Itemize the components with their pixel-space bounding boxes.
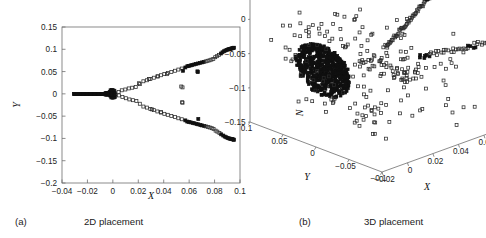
data-point-marker: [355, 119, 358, 122]
data-point-marker: [170, 70, 173, 73]
x-tick-label: −0.04: [52, 187, 73, 196]
x-tick-label: 0.02: [427, 157, 443, 166]
data-point-marker: [323, 92, 326, 95]
data-point-marker: [407, 66, 410, 69]
data-point-marker: [455, 65, 458, 68]
data-point-marker: [449, 58, 452, 61]
data-point-marker: [367, 104, 370, 107]
data-point-marker: [166, 113, 169, 116]
data-point-marker: [134, 85, 137, 88]
data-point-marker: [137, 82, 140, 85]
data-point-marker: [323, 68, 326, 71]
y-tick-label: 0.1: [46, 45, 58, 54]
data-point-marker: [299, 68, 302, 71]
plot-3d-zaxis-label: N: [294, 108, 305, 117]
data-point-marker: [177, 117, 180, 120]
data-point-marker: [323, 102, 326, 105]
data-point-marker: [400, 99, 403, 102]
data-point-marker: [359, 53, 362, 56]
data-point-marker: [358, 124, 361, 127]
data-point-marker: [462, 106, 465, 109]
data-point-marker: [308, 47, 311, 50]
data-point-marker: [348, 107, 351, 110]
data-point-marker: [339, 78, 342, 81]
data-point-marker: [355, 15, 358, 18]
y-tick-label: 0.05: [41, 68, 57, 77]
plot-3d-datapoints: [270, 0, 486, 140]
data-point-marker: [354, 37, 357, 40]
data-point-marker: [311, 58, 314, 61]
data-point-marker: [173, 116, 176, 119]
data-point-marker: [326, 81, 329, 84]
plot-2d-datapoints: [73, 46, 236, 141]
data-point-marker: [362, 118, 365, 121]
data-point-marker: [331, 63, 334, 66]
data-point-marker: [358, 31, 361, 34]
data-point-marker: [444, 84, 447, 87]
data-point-marker: [316, 64, 319, 67]
data-point-marker: [124, 97, 127, 100]
data-point-marker: [337, 72, 340, 75]
data-point-marker: [340, 64, 343, 67]
z-tick-label: −0.05: [225, 50, 246, 59]
data-point-marker: [297, 100, 300, 103]
data-point-marker: [360, 44, 363, 47]
data-point-marker: [317, 58, 320, 61]
data-point-marker: [121, 96, 124, 99]
data-point-marker: [361, 114, 364, 117]
data-point-marker: [321, 47, 324, 50]
data-point-marker: [425, 54, 428, 57]
data-point-marker: [433, 66, 436, 69]
data-point-marker: [142, 80, 145, 83]
z-tick-label: −0.1: [229, 84, 246, 93]
data-point-marker: [138, 102, 141, 105]
data-point-marker: [328, 65, 331, 68]
data-point-marker: [473, 41, 476, 44]
panel-2d-placement: −0.04−0.0200.020.040.060.080.1−0.2−0.15−…: [0, 0, 250, 238]
data-point-marker: [288, 48, 291, 51]
plot-2d-svg: −0.04−0.0200.020.040.060.080.1−0.2−0.15−…: [0, 0, 250, 200]
data-point-marker: [386, 55, 389, 58]
data-point-marker: [331, 74, 334, 77]
data-point-marker: [339, 82, 342, 85]
data-point-marker: [142, 105, 145, 108]
data-point-marker: [425, 87, 428, 90]
data-point-marker: [442, 79, 445, 82]
plot-3d-xaxis-label: X: [423, 181, 431, 192]
data-point-marker: [336, 54, 339, 57]
data-point-marker: [419, 54, 422, 57]
data-point-marker: [407, 94, 410, 97]
data-point-marker: [312, 61, 315, 64]
data-point-marker: [296, 59, 299, 62]
data-point-marker: [329, 56, 332, 59]
data-point-marker: [344, 85, 347, 88]
x-tick-label: 0.02: [130, 187, 146, 196]
data-point-marker: [399, 37, 402, 40]
data-point-marker: [392, 73, 395, 76]
y-tick-label: −0.1: [41, 134, 58, 143]
y-tick-label: 0.15: [41, 23, 57, 32]
data-point-marker: [298, 11, 301, 14]
data-point-marker: [332, 71, 335, 74]
data-point-marker: [451, 111, 454, 114]
y-tick-label: −0.2: [41, 179, 58, 188]
data-point-marker: [332, 22, 335, 25]
data-point-marker: [138, 83, 141, 86]
data-point-marker: [333, 66, 336, 69]
data-point-marker: [325, 110, 328, 113]
data-point-marker: [387, 89, 390, 92]
data-point-marker: [452, 32, 455, 35]
data-point-marker: [344, 82, 347, 85]
data-point-marker: [281, 24, 284, 27]
data-point-marker: [324, 88, 327, 91]
data-point-marker: [362, 74, 365, 77]
data-point-marker: [270, 38, 273, 41]
plot-2d-yaxis-label: Y: [11, 101, 22, 108]
data-point-marker: [420, 75, 423, 78]
data-point-marker: [473, 105, 476, 108]
data-point-marker: [232, 138, 235, 141]
data-point-marker: [135, 100, 138, 103]
panel-b-caption: 3D placement: [364, 216, 423, 227]
data-point-marker: [131, 99, 134, 102]
data-point-marker: [445, 104, 448, 107]
